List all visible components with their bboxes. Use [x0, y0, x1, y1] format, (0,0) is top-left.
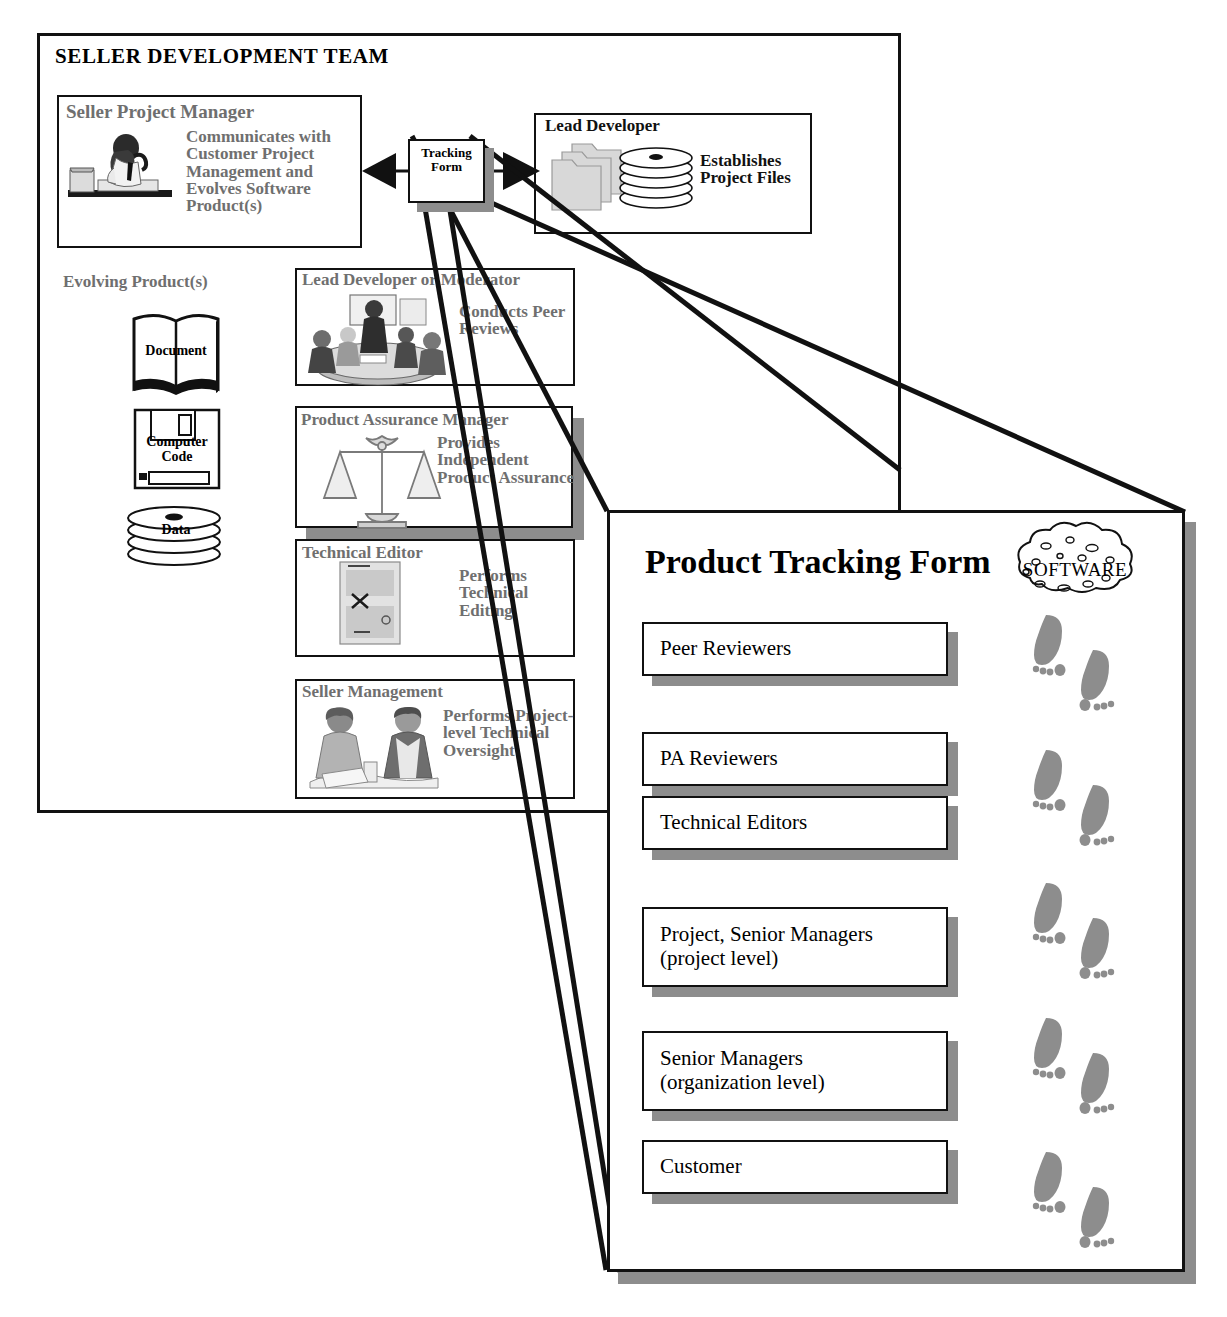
form-row-technical-editors[interactable]: Technical Editors [642, 796, 948, 850]
diagram-canvas: SELLER DEVELOPMENT TEAM Seller Project M… [0, 0, 1227, 1317]
footprints-icon [0, 0, 1227, 1317]
form-row-label-2: Technical Editors [644, 811, 807, 835]
form-row-label-1: PA Reviewers [644, 747, 778, 771]
form-row-customer[interactable]: Customer [642, 1140, 948, 1194]
form-row-label-4: Senior Managers (organization level) [644, 1047, 825, 1094]
form-row-senior-managers[interactable]: Senior Managers (organization level) [642, 1031, 948, 1111]
form-row-pa-reviewers[interactable]: PA Reviewers [642, 732, 948, 786]
tracking-form-line1: Tracking [408, 146, 485, 160]
form-row-project-senior-managers[interactable]: Project, Senior Managers (project level) [642, 907, 948, 987]
tracking-form-line2: Form [408, 160, 485, 174]
form-row-label-3: Project, Senior Managers (project level) [644, 923, 873, 970]
form-row-label-0: Peer Reviewers [644, 637, 791, 661]
tracking-form-label: Tracking Form [408, 146, 485, 174]
form-row-peer-reviewers[interactable]: Peer Reviewers [642, 622, 948, 676]
form-row-label-5: Customer [644, 1155, 742, 1179]
